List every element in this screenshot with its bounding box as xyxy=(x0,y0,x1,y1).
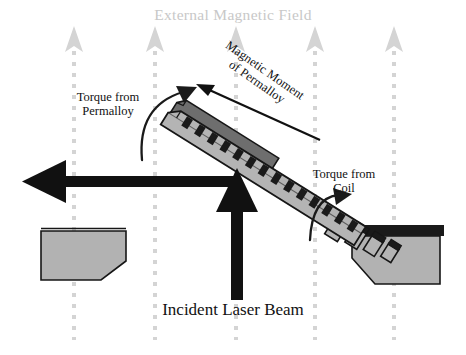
incident-laser-arrow xyxy=(216,168,258,300)
incident-laser-beam-label: Incident Laser Beam xyxy=(0,300,466,319)
field-arrowhead-5 xyxy=(385,26,403,52)
left-support-block xyxy=(41,229,126,281)
torque-coil-line2: Coil xyxy=(333,181,355,195)
torque-permalloy-line1: Torque from xyxy=(77,90,140,104)
magnetic-cantilever-diagram: External Magnetic Field Torque from Perm… xyxy=(0,0,466,355)
field-arrowhead-1 xyxy=(65,26,83,52)
torque-from-permalloy-label: Torque from Permalloy xyxy=(60,90,156,118)
torque-coil-line1: Torque from xyxy=(313,167,376,181)
field-arrowhead-4 xyxy=(306,26,324,52)
page-title: External Magnetic Field xyxy=(0,6,466,23)
reflected-laser-arrow xyxy=(22,160,240,203)
field-arrowhead-2 xyxy=(146,26,164,52)
torque-from-coil-label: Torque from Coil xyxy=(297,167,391,195)
torque-permalloy-line2: Permalloy xyxy=(82,104,133,118)
